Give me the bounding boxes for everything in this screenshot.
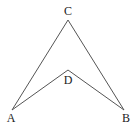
label-b: B [122,111,130,125]
edge-cb [68,20,124,110]
edge-db [68,70,124,110]
label-c: C [64,4,72,18]
edge-ad [12,70,68,110]
label-d: D [64,73,73,87]
label-a: A [7,111,16,125]
edge-ac [12,20,68,110]
geometry-diagram: C D A B [0,0,137,130]
